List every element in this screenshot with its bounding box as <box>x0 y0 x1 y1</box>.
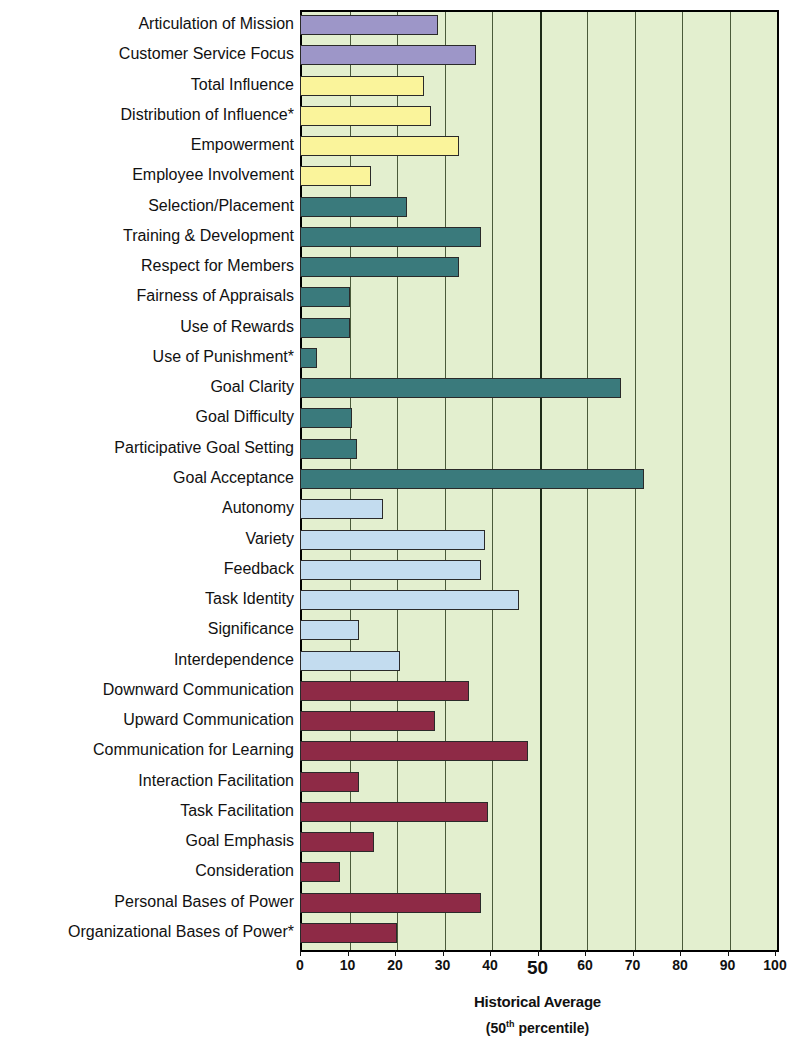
axis-title-sub: (50th percentile) <box>300 1019 775 1036</box>
bar[interactable] <box>300 741 528 761</box>
bar[interactable] <box>300 257 459 277</box>
bar[interactable] <box>300 862 340 882</box>
category-label: Employee Involvement <box>132 167 294 183</box>
category-label: Articulation of Mission <box>138 16 294 32</box>
category-label: Total Influence <box>191 77 294 93</box>
bar[interactable] <box>300 227 481 247</box>
axis-tick-70 <box>633 950 634 956</box>
bar[interactable] <box>300 499 383 519</box>
category-label: Downward Communication <box>103 682 294 698</box>
category-label: Autonomy <box>222 500 294 516</box>
category-label: Interdependence <box>174 652 294 668</box>
bar-series <box>300 10 775 948</box>
category-label: Upward Communication <box>123 712 294 728</box>
category-label: Respect for Members <box>141 258 294 274</box>
bar[interactable] <box>300 76 424 96</box>
bar-row <box>300 161 775 191</box>
bar[interactable] <box>300 166 371 186</box>
category-label: Feedback <box>224 561 294 577</box>
bar[interactable] <box>300 318 350 338</box>
category-label: Customer Service Focus <box>119 46 294 62</box>
bar-row <box>300 434 775 464</box>
bar-row <box>300 282 775 312</box>
bar[interactable] <box>300 560 481 580</box>
bar[interactable] <box>300 106 431 126</box>
axis-tick-label-70: 70 <box>625 957 641 973</box>
bar-row <box>300 797 775 827</box>
bar[interactable] <box>300 590 519 610</box>
bar[interactable] <box>300 530 485 550</box>
bar[interactable] <box>300 893 481 913</box>
bar-row <box>300 373 775 403</box>
category-label: Significance <box>208 621 294 637</box>
bar-row <box>300 222 775 252</box>
axis-title-main: Historical Average <box>300 993 775 1010</box>
bar[interactable] <box>300 772 359 792</box>
axis-tick-label-10: 10 <box>340 957 356 973</box>
bar-row <box>300 313 775 343</box>
category-label: Fairness of Appraisals <box>137 288 294 304</box>
axis-tick-label-100: 100 <box>763 957 786 973</box>
axis-tick-label-90: 90 <box>720 957 736 973</box>
bar-row <box>300 464 775 494</box>
bar[interactable] <box>300 287 350 307</box>
axis-tick-label-50: 50 <box>527 957 548 979</box>
category-label: Task Facilitation <box>180 803 294 819</box>
bar[interactable] <box>300 681 469 701</box>
bar-row <box>300 343 775 373</box>
category-label: Participative Goal Setting <box>114 440 294 456</box>
axis-title-sub-superscript: th <box>506 1019 515 1029</box>
axis-tick-label-40: 40 <box>482 957 498 973</box>
bar[interactable] <box>300 136 459 156</box>
category-label: Training & Development <box>123 228 294 244</box>
bar-row <box>300 736 775 766</box>
bar[interactable] <box>300 15 438 35</box>
axis-title-sub-suffix: percentile) <box>515 1020 590 1036</box>
bar-row <box>300 71 775 101</box>
bar[interactable] <box>300 45 476 65</box>
bar-row <box>300 131 775 161</box>
bar[interactable] <box>300 378 621 398</box>
category-label: Empowerment <box>191 137 294 153</box>
category-label: Task Identity <box>205 591 294 607</box>
bar[interactable] <box>300 711 435 731</box>
value-axis: 0102030405060708090100 <box>300 950 775 980</box>
bar[interactable] <box>300 348 317 368</box>
axis-tick-label-30: 30 <box>435 957 451 973</box>
axis-tick-60 <box>585 950 586 956</box>
bar-row <box>300 585 775 615</box>
bar-row <box>300 524 775 554</box>
axis-tick-50 <box>538 950 539 956</box>
category-label: Use of Punishment* <box>153 349 294 365</box>
category-label: Communication for Learning <box>93 742 294 758</box>
bar-row <box>300 766 775 796</box>
bar[interactable] <box>300 651 400 671</box>
bar-row <box>300 252 775 282</box>
bar-row <box>300 101 775 131</box>
axis-tick-30 <box>443 950 444 956</box>
bar-row <box>300 676 775 706</box>
bar-chart: Articulation of MissionCustomer Service … <box>0 0 794 1061</box>
bar-row <box>300 857 775 887</box>
axis-tick-10 <box>348 950 349 956</box>
bar-row <box>300 403 775 433</box>
bar[interactable] <box>300 620 359 640</box>
category-label: Goal Difficulty <box>196 409 294 425</box>
category-label: Use of Rewards <box>180 319 294 335</box>
bar[interactable] <box>300 802 488 822</box>
axis-tick-90 <box>728 950 729 956</box>
axis-title-sub-prefix: (50 <box>486 1020 506 1036</box>
bar[interactable] <box>300 439 357 459</box>
bar[interactable] <box>300 832 374 852</box>
bar-row <box>300 887 775 917</box>
category-label: Interaction Facilitation <box>138 773 294 789</box>
bar[interactable] <box>300 197 407 217</box>
axis-tick-80 <box>680 950 681 956</box>
bar-row <box>300 494 775 524</box>
axis-tick-0 <box>300 950 301 956</box>
bar[interactable] <box>300 408 352 428</box>
bar[interactable] <box>300 923 397 943</box>
bar[interactable] <box>300 469 644 489</box>
axis-tick-100 <box>775 950 776 956</box>
axis-tick-20 <box>395 950 396 956</box>
